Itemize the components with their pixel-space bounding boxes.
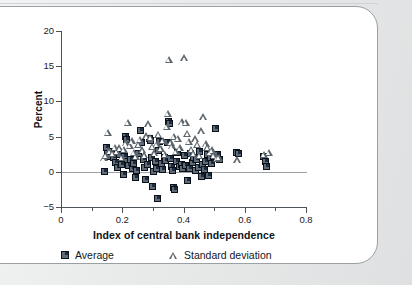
data-point-standard-deviation [153, 140, 161, 147]
data-point-average [154, 195, 161, 202]
x-axis-title: Index of central bank independence [61, 229, 307, 241]
data-point-average [103, 144, 110, 151]
data-point-standard-deviation [183, 130, 191, 137]
data-point-average [176, 163, 183, 170]
data-point-average [187, 150, 194, 157]
data-point-average [193, 156, 200, 163]
plot-area [61, 31, 306, 207]
legend-item-standard-deviation: Standard deviation [169, 248, 272, 262]
x-axis-minor-tick [92, 208, 93, 211]
data-point-average [199, 161, 206, 168]
data-point-standard-deviation [203, 144, 211, 151]
data-point-average [196, 148, 203, 155]
data-point-average [122, 133, 129, 140]
data-point-standard-deviation [115, 144, 123, 151]
data-point-standard-deviation [102, 152, 110, 159]
legend-item-average: Average [61, 248, 114, 262]
data-point-average [202, 158, 209, 165]
data-point-standard-deviation [170, 133, 178, 140]
data-point-average [138, 139, 145, 146]
x-axis-tick-label: 0.4 [169, 214, 199, 225]
data-point-average [116, 151, 123, 158]
data-point-standard-deviation [180, 54, 188, 61]
data-point-average [110, 154, 117, 161]
data-point-average [178, 161, 185, 168]
y-axis-tick-label: −5 [20, 202, 54, 212]
data-point-average [216, 156, 223, 163]
data-point-average [135, 150, 142, 157]
data-point-average [235, 150, 242, 157]
data-point-standard-deviation [113, 148, 121, 155]
data-point-average [262, 158, 269, 165]
data-point-standard-deviation [118, 154, 126, 161]
x-axis-minor-tick [214, 208, 215, 211]
data-point-standard-deviation [206, 149, 214, 156]
data-point-standard-deviation [187, 146, 195, 153]
data-point-average [161, 154, 168, 161]
data-point-standard-deviation [197, 127, 205, 134]
data-point-average [118, 161, 125, 168]
data-point-average [140, 156, 147, 163]
data-point-average [214, 151, 221, 158]
data-point-average [204, 151, 211, 158]
data-point-standard-deviation [105, 147, 113, 154]
data-point-average [205, 172, 212, 179]
data-point-average [106, 153, 113, 160]
data-point-standard-deviation [146, 134, 154, 141]
data-point-average [263, 163, 270, 170]
data-point-average [198, 173, 205, 180]
data-point-average [173, 158, 180, 165]
data-point-average [130, 160, 137, 167]
x-axis-tick-label: 0 [46, 214, 76, 225]
data-point-average [182, 162, 189, 169]
x-axis-tick [184, 208, 185, 213]
data-point-standard-deviation [128, 137, 136, 144]
data-point-average [133, 167, 140, 174]
data-point-standard-deviation [130, 149, 138, 156]
data-point-average [146, 135, 153, 142]
data-point-average [129, 165, 136, 172]
data-point-average [166, 120, 173, 127]
data-point-standard-deviation [185, 138, 193, 145]
figure-card: 20151050−5 00.20.40.60.8 Percent Index o… [0, 0, 412, 285]
data-point-average [260, 153, 267, 160]
data-point-standard-deviation [124, 119, 132, 126]
data-point-average [181, 152, 188, 159]
data-point-standard-deviation [172, 148, 180, 155]
data-point-average [184, 177, 191, 184]
data-point-standard-deviation [142, 132, 150, 139]
y-axis-title: Percent [33, 70, 44, 150]
data-point-average [233, 149, 240, 156]
data-point-average [127, 156, 134, 163]
legend-label-average: Average [75, 249, 114, 261]
data-point-standard-deviation [134, 141, 142, 148]
data-point-average [179, 165, 186, 172]
data-point-average [125, 162, 132, 169]
data-point-standard-deviation [136, 136, 144, 143]
data-point-average [169, 167, 176, 174]
triangle-marker-icon [169, 251, 178, 259]
data-point-average [137, 127, 144, 134]
data-point-standard-deviation [193, 141, 201, 148]
data-point-average [168, 163, 175, 170]
x-axis-tick [122, 208, 123, 213]
data-point-standard-deviation [176, 144, 184, 151]
data-point-standard-deviation [164, 110, 172, 117]
data-point-average [159, 166, 166, 173]
data-point-average [170, 184, 177, 191]
data-point-average [108, 148, 115, 155]
data-point-average [167, 155, 174, 162]
data-point-average [165, 118, 172, 125]
data-point-average [153, 165, 160, 172]
x-axis-tick [61, 208, 62, 213]
x-axis-tick-label: 0.8 [291, 214, 321, 225]
data-point-standard-deviation [215, 154, 223, 161]
data-point-standard-deviation [154, 131, 162, 138]
data-point-average [114, 164, 121, 171]
x-axis-tick [306, 208, 307, 213]
data-point-standard-deviation [122, 139, 130, 146]
scatter-chart: 20151050−5 00.20.40.60.8 Percent Index o… [0, 0, 412, 285]
data-point-standard-deviation [189, 150, 197, 157]
data-point-standard-deviation [208, 146, 216, 153]
data-point-standard-deviation [120, 146, 128, 153]
